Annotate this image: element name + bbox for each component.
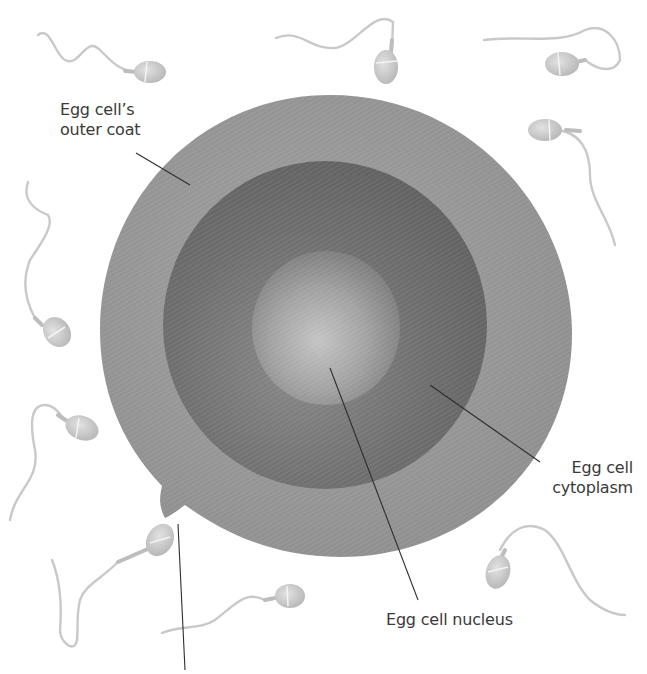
label-nucleus: Egg cell nucleus xyxy=(386,610,513,630)
label-outer-coat-line1: Egg cell’s xyxy=(60,100,140,120)
sperm-icon xyxy=(482,526,625,615)
label-outer-coat-line2: outer coat xyxy=(60,120,140,140)
sperm-icon xyxy=(276,19,398,84)
label-outer-coat: Egg cell’s outer coat xyxy=(60,100,140,140)
label-cytoplasm-line1: Egg cell xyxy=(535,458,645,478)
sperm-icon xyxy=(25,182,76,353)
sperm-icon xyxy=(38,33,166,83)
label-nucleus-line1: Egg cell nucleus xyxy=(386,610,513,630)
sperm-icon xyxy=(484,28,620,76)
sperm-icon xyxy=(10,405,102,520)
label-cytoplasm-line2: cytoplasm xyxy=(535,478,645,498)
sperm-icon xyxy=(52,519,180,647)
sperm-icon xyxy=(162,584,305,633)
egg-cell xyxy=(100,95,572,557)
label-cytoplasm: Egg cell cytoplasm xyxy=(535,458,645,498)
leader-unlabeled xyxy=(178,524,185,670)
